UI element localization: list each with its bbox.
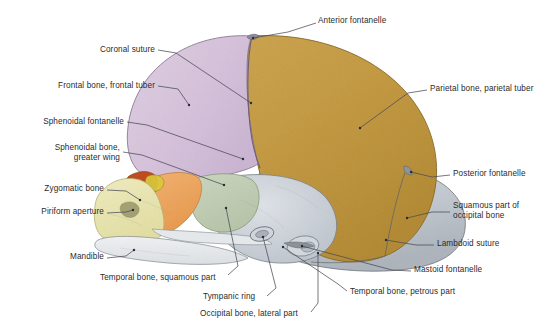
label-sphenoidal-fontanelle: Sphenoidal fontanelle [0,117,124,127]
dot-temporal-squamous [225,207,227,209]
dot-tympanic-ring [262,236,264,238]
label-anterior-fontanelle: Anterior fontanelle [318,16,386,26]
dot-mastoid-fontanelle [301,245,303,247]
skull-body [94,34,465,271]
label-occipital-lateral: Occipital bone, lateral part [200,309,298,319]
label-sphenoidal-bone-line1: Sphenoidal bone, [55,143,120,152]
dot-posterior-fontanelle [410,171,412,173]
label-tympanic-ring: Tympanic ring [203,292,255,302]
label-lambdoid-suture: Lambdoid suture [437,239,500,249]
dot-piriform-aperture [132,209,134,211]
dot-lambdoid-suture [385,239,387,241]
label-occipital-squamous-line1: Squamous part of [453,201,519,210]
dot-frontal-bone [188,104,190,106]
dot-sphenoidal-bone [223,184,225,186]
label-posterior-fontanelle: Posterior fontanelle [453,169,526,179]
dot-occipital-lateral [317,252,319,254]
label-zygomatic-bone: Zygomatic bone [0,184,104,194]
dot-anterior-fontanelle [252,37,254,39]
label-coronal-suture: Coronal suture [0,45,155,55]
frontal-bone-region [127,36,258,183]
figure-root: Anterior fontanelle Coronal suture Front… [0,0,559,334]
label-piriform-aperture: Piriform aperture [0,207,104,217]
label-sphenoidal-bone: Sphenoidal bone,greater wing [0,143,120,163]
dot-mandible [133,249,135,251]
label-mastoid-fontanelle: Mastoid fontanelle [414,265,482,275]
label-mandible: Mandible [0,252,104,262]
label-sphenoidal-bone-line2: greater wing [74,153,120,162]
dot-occipital-squamous [406,217,408,219]
label-occipital-squamous-line2: occipital bone [453,211,504,220]
label-frontal-bone: Frontal bone, frontal tuber [0,81,155,91]
dot-zygomatic-bone [139,199,141,201]
label-parietal-bone: Parietal bone, parietal tuber [430,84,534,94]
dot-sphenoidal-fontanelle [242,158,244,160]
label-temporal-petrous: Temporal bone, petrous part [350,287,455,297]
dot-coronal-suture [250,102,252,104]
dot-temporal-petrous [282,246,284,248]
dot-parietal-bone [359,127,361,129]
label-temporal-squamous: Temporal bone, squamous part [100,273,216,283]
label-occipital-squamous: Squamous part ofoccipital bone [453,201,519,221]
